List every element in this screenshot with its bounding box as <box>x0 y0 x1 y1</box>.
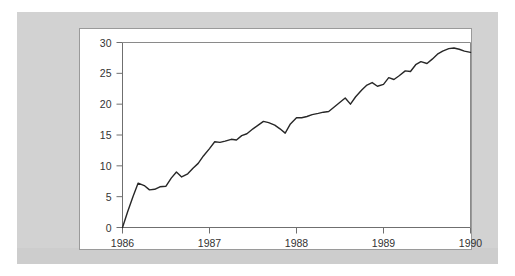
x-tick-label: 1987 <box>198 237 222 249</box>
x-tick-label: 1986 <box>111 237 135 249</box>
x-tick-label: 1989 <box>372 237 396 249</box>
x-axis-tick-marks <box>123 228 471 234</box>
plot-axes <box>123 43 471 228</box>
x-tick-label: 1990 <box>459 237 483 249</box>
line-chart: 051015202530 19861987198819891990 <box>0 0 515 276</box>
y-tick-label: 30 <box>100 37 112 49</box>
y-tick-label: 10 <box>100 160 112 172</box>
x-tick-label: 1988 <box>285 237 309 249</box>
y-tick-label: 5 <box>106 191 112 203</box>
y-tick-label: 0 <box>106 222 112 234</box>
plot-frame <box>123 43 471 228</box>
y-tick-label: 25 <box>100 67 112 79</box>
data-series-line <box>123 48 471 227</box>
y-tick-label: 20 <box>100 98 112 110</box>
y-axis-tick-marks <box>117 43 123 228</box>
y-axis-tick-labels: 051015202530 <box>100 37 112 234</box>
x-axis-tick-labels: 19861987198819891990 <box>111 237 483 249</box>
y-tick-label: 15 <box>100 129 112 141</box>
chart-page: 051015202530 19861987198819891990 <box>0 0 515 276</box>
